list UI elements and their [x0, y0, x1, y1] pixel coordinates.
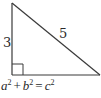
equation-plus: +	[12, 78, 23, 93]
hypotenuse	[12, 3, 100, 75]
equation-c-exponent: 2	[50, 78, 54, 87]
vertical-leg-label: 3	[3, 36, 11, 49]
pythagorean-equation: a2+b2=c2	[1, 79, 54, 92]
right-angle-marker	[12, 64, 23, 75]
hypotenuse-label: 5	[59, 27, 67, 40]
equation-equals: =	[33, 78, 44, 93]
equation-a-exponent: 2	[8, 78, 12, 87]
